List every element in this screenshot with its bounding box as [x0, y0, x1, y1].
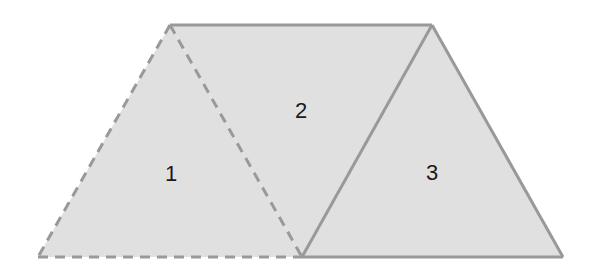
label-triangle-2: 2 — [295, 98, 307, 123]
trapezoid-diagram: 1 2 3 — [0, 0, 590, 277]
label-triangle-1: 1 — [165, 161, 177, 186]
label-triangle-3: 3 — [426, 160, 438, 185]
